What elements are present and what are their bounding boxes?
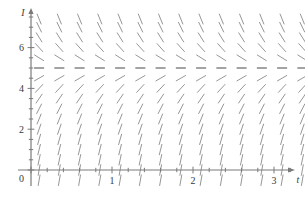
slope-mark	[119, 134, 122, 145]
slope-mark	[301, 154, 303, 165]
slope-mark	[158, 104, 163, 114]
slope-mark	[56, 43, 64, 52]
slope-mark	[137, 33, 143, 43]
slope-mark	[98, 134, 101, 145]
slope-mark	[116, 43, 124, 52]
slope-mark	[56, 94, 62, 104]
slope-mark	[117, 33, 123, 43]
x-tick-label: 1	[110, 175, 115, 186]
slope-mark	[220, 134, 223, 145]
slope-mark	[260, 14, 264, 25]
slope-mark	[198, 104, 203, 114]
slope-mark	[98, 124, 102, 135]
slope-mark	[136, 84, 144, 92]
x-tick-label: 3	[272, 175, 277, 186]
slope-mark	[299, 94, 305, 104]
slope-mark	[238, 43, 246, 52]
slope-mark	[95, 75, 105, 81]
slope-mark	[159, 154, 161, 165]
slope-field-canvas: 1232460tI	[0, 0, 305, 203]
slope-mark	[299, 43, 306, 52]
slope-mark	[220, 144, 223, 155]
y-tick-label: 4	[19, 83, 24, 94]
slope-mark	[78, 154, 80, 165]
slope-mark	[117, 94, 123, 104]
slope-mark	[98, 14, 102, 25]
slope-mark	[139, 144, 142, 155]
slope-mark	[298, 84, 305, 92]
slope-mark	[258, 43, 266, 52]
slope-mark	[34, 55, 44, 61]
slope-mark	[158, 33, 164, 43]
slope-mark	[37, 124, 41, 135]
slope-mark	[57, 114, 61, 125]
slope-mark	[159, 144, 162, 155]
slope-mark	[257, 55, 267, 61]
slope-mark	[119, 175, 121, 186]
slope-mark	[78, 134, 81, 145]
slope-mark	[180, 154, 182, 165]
slope-mark	[38, 134, 41, 145]
slope-mark	[301, 164, 303, 175]
slope-mark	[279, 94, 285, 104]
slope-mark	[217, 84, 225, 92]
slope-mark	[281, 154, 283, 165]
slope-mark	[176, 75, 186, 81]
slope-mark	[301, 175, 303, 186]
slope-mark	[75, 55, 85, 61]
slope-mark	[200, 154, 202, 165]
slope-mark	[237, 75, 247, 81]
slope-mark	[135, 75, 145, 81]
slope-mark	[300, 114, 304, 125]
slope-mark	[260, 134, 263, 145]
slope-mark	[259, 104, 264, 114]
slope-mark	[198, 33, 204, 43]
slope-mark	[216, 75, 226, 81]
slope-mark	[299, 33, 305, 43]
slope-mark	[115, 75, 125, 81]
slope-mark	[95, 55, 105, 61]
slope-mark	[158, 114, 162, 125]
slope-mark	[178, 104, 183, 114]
slope-mark	[98, 144, 101, 155]
slope-mark	[77, 33, 83, 43]
slope-mark	[55, 84, 63, 92]
y-axis-label: I	[20, 7, 25, 18]
slope-mark	[260, 124, 264, 135]
slope-mark	[301, 144, 304, 155]
slope-mark	[238, 94, 244, 104]
slope-mark	[38, 154, 40, 165]
y-tick-label: 2	[19, 124, 24, 135]
slope-mark	[157, 43, 165, 52]
slope-mark	[156, 75, 166, 81]
slope-mark	[97, 94, 103, 104]
slope-mark	[157, 94, 163, 104]
slope-mark	[199, 124, 203, 135]
slope-mark	[261, 154, 263, 165]
slope-mark	[138, 124, 142, 135]
slope-mark	[300, 124, 304, 135]
slope-mark	[176, 55, 186, 61]
slope-mark	[180, 175, 182, 186]
slope-mark	[75, 75, 85, 81]
slope-mark	[178, 94, 184, 104]
slope-mark	[139, 175, 141, 186]
slope-mark	[199, 114, 203, 125]
slope-mark	[38, 175, 40, 186]
slope-mark	[37, 14, 41, 25]
slope-mark	[178, 33, 184, 43]
slope-mark	[280, 124, 284, 135]
slope-mark	[219, 14, 223, 25]
slope-mark	[35, 84, 43, 92]
slope-mark	[137, 94, 143, 104]
slope-mark	[36, 104, 41, 114]
slope-mark	[300, 14, 304, 25]
slope-mark	[118, 14, 122, 25]
slope-mark	[179, 14, 183, 25]
slope-mark	[138, 104, 143, 114]
slope-mark	[196, 55, 206, 61]
slope-mark	[116, 84, 124, 92]
slope-mark	[200, 134, 203, 145]
slope-mark	[117, 104, 122, 114]
slope-mark	[239, 104, 244, 114]
